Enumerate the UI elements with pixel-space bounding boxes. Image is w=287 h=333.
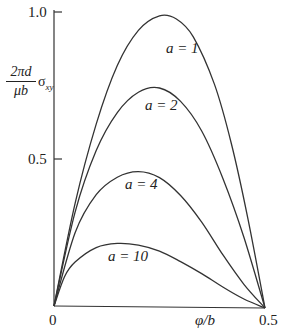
y-label-subscript: xy — [46, 82, 54, 92]
y-tick-label-0.5: 0.5 — [28, 152, 47, 167]
y-axis-label: 2πd μb σxy — [6, 64, 58, 98]
curve-a1 — [54, 15, 265, 308]
curve-a2 — [54, 87, 265, 308]
y-label-denominator: μb — [6, 82, 36, 99]
y-label-numerator: 2πd — [6, 64, 36, 82]
curve-label-a10: a = 10 — [108, 249, 148, 264]
curve-a10 — [54, 243, 265, 308]
y-tick-label-1.0: 1.0 — [28, 5, 47, 20]
x-tick-label-0.5: 0.5 — [259, 313, 278, 328]
x-tick-label-0: 0 — [49, 313, 57, 328]
x-axis-label: φ/b — [195, 313, 215, 328]
curve-label-a2: a = 2 — [145, 98, 178, 113]
curve-label-a4: a = 4 — [125, 177, 158, 192]
x-axis — [54, 306, 265, 308]
curve-label-a1: a = 1 — [166, 41, 199, 56]
curve-a4 — [54, 172, 265, 308]
y-label-sigma: σ — [38, 74, 46, 89]
